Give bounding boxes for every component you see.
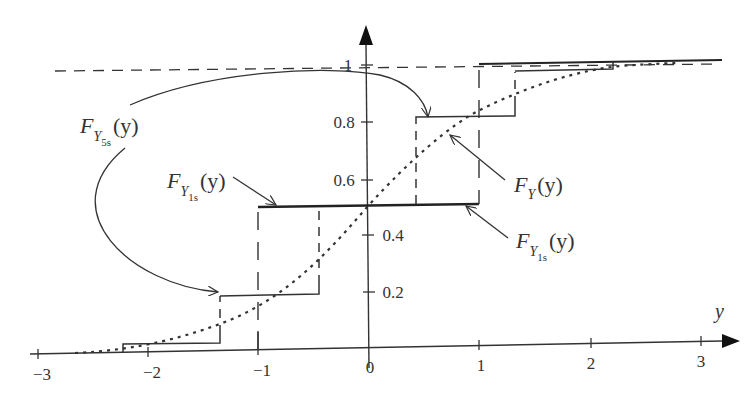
x-axis	[30, 331, 740, 359]
svg-text:2: 2	[587, 354, 596, 373]
svg-text:FY5s(y): FY5s(y)	[79, 113, 139, 148]
svg-text:0.4: 0.4	[382, 226, 404, 245]
cdf-step-diagram: −3 −2 −1 0 1 2 3 y 1 0.8 0.6 0.4 0.2	[0, 0, 756, 403]
x-axis-label: y	[713, 300, 724, 323]
svg-text:FY1s(y): FY1s(y)	[515, 228, 575, 263]
svg-text:0.6: 0.6	[333, 171, 354, 190]
annotation-F-Y: FY(y)	[450, 135, 563, 202]
svg-text:−1: −1	[253, 361, 271, 380]
svg-text:FY1s(y): FY1s(y)	[166, 168, 226, 203]
svg-text:1: 1	[477, 356, 486, 375]
svg-text:0.8: 0.8	[333, 113, 354, 132]
svg-text:0.2: 0.2	[382, 283, 403, 302]
svg-text:−3: −3	[33, 365, 51, 384]
svg-text:3: 3	[697, 352, 706, 371]
svg-text:−2: −2	[143, 363, 161, 382]
svg-text:FY(y): FY(y)	[513, 172, 563, 202]
series-F-Y-dotted	[75, 63, 680, 353]
annotation-F-Y1s-left: FY1s(y)	[166, 168, 276, 205]
series-F-Y1s-step	[258, 60, 722, 350]
y-axis	[359, 25, 375, 368]
y-axis-arrow-icon	[359, 25, 373, 45]
svg-text:1: 1	[344, 56, 353, 75]
annotation-F-Y5s: FY5s(y)	[79, 70, 428, 292]
x-axis-arrow-icon	[722, 334, 740, 348]
reference-line-one	[55, 64, 720, 71]
annotation-F-Y1s-right: FY1s(y)	[466, 206, 575, 263]
svg-text:0: 0	[366, 358, 375, 377]
